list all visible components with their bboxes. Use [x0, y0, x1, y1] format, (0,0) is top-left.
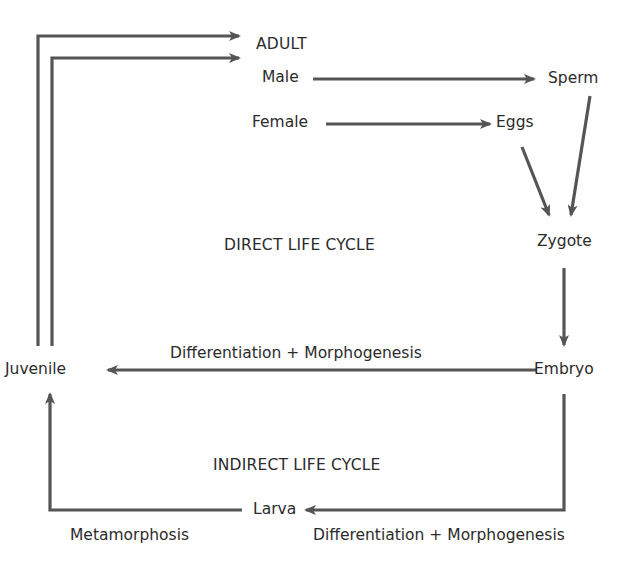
arrow-sperm-to-zygote [571, 96, 590, 215]
arrow-eggs-to-zygote [522, 147, 549, 215]
arrow-juvenile-to-adult-outer [38, 36, 239, 346]
node-adult: ADULT [256, 37, 307, 53]
node-embryo: Embryo [534, 362, 594, 378]
arrows-layer [0, 0, 641, 570]
label-direct-life-cycle: DIRECT LIFE CYCLE [224, 238, 375, 254]
node-sperm: Sperm [548, 71, 598, 87]
node-female: Female [252, 115, 308, 131]
arrow-juvenile-to-adult-inner [52, 58, 239, 346]
arrow-embryo-to-larva [306, 394, 564, 510]
node-zygote: Zygote [537, 234, 592, 250]
node-larva: Larva [253, 502, 296, 518]
life-cycle-diagram: ADULT Male Sperm Female Eggs DIRECT LIFE… [0, 0, 641, 570]
node-juvenile: Juvenile [5, 362, 66, 378]
edge-label-larva-to-juvenile: Metamorphosis [70, 528, 189, 544]
node-eggs: Eggs [496, 115, 534, 131]
arrow-larva-to-juvenile [50, 394, 242, 510]
label-indirect-life-cycle: INDIRECT LIFE CYCLE [213, 458, 381, 474]
edge-label-embryo-to-juvenile: Differentiation + Morphogenesis [170, 346, 422, 362]
node-male: Male [262, 70, 299, 86]
edge-label-embryo-to-larva: Differentiation + Morphogenesis [313, 528, 565, 544]
